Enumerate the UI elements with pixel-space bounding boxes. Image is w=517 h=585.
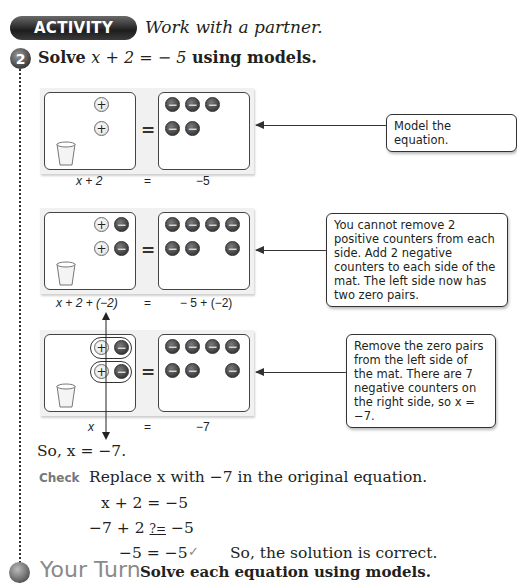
negative-counter: −	[205, 217, 220, 232]
model-1-right-label: −5	[196, 174, 210, 188]
negative-counter: −	[225, 363, 240, 378]
check-label: Check	[39, 471, 80, 485]
negative-counter: −	[165, 97, 180, 112]
equation-mat-2: + − + − = − − − − − − −	[40, 208, 254, 294]
activity-badge: ACTIVITY	[10, 16, 137, 40]
step-title-equation: x + 2 = − 5	[91, 48, 186, 67]
negative-counter: −	[165, 217, 180, 232]
your-turn-label: Your Turn	[40, 557, 141, 582]
negative-counter: −	[205, 97, 220, 112]
mat-left-side: + +	[44, 92, 136, 170]
model-2-equals-label: =	[144, 296, 151, 310]
activity-badge-label: ACTIVITY	[34, 19, 113, 37]
equation-mat-3: + − + − = − − − − − − −	[40, 330, 254, 416]
model-3-left-label: x	[88, 420, 94, 434]
mat-right-side: − − − − − − −	[158, 334, 250, 412]
negative-counter: −	[114, 241, 129, 256]
negative-counter: −	[165, 121, 180, 136]
equation-mat-1: + + = − − − − −	[40, 88, 254, 174]
negative-counter: −	[225, 241, 240, 256]
mat-equals-sign: =	[141, 240, 155, 260]
negative-counter: −	[185, 363, 200, 378]
check-line-1: x + 2 = −5	[101, 494, 188, 512]
negative-counter: −	[185, 339, 200, 354]
mat-right-side: − − − − −	[158, 92, 250, 170]
negative-counter: −	[185, 121, 200, 136]
negative-counter: −	[205, 339, 220, 354]
negative-counter: −	[165, 339, 180, 354]
negative-counter: −	[165, 363, 180, 378]
positive-counter: +	[94, 97, 109, 112]
callout-add-negatives: You cannot remove 2 positive counters fr…	[326, 213, 508, 307]
mat-equals-sign: =	[141, 120, 155, 140]
check-line-2: −7 + 2 ?= −5	[89, 519, 194, 537]
callout-model-equation: Model the equation.	[386, 114, 517, 152]
negative-counter: −	[225, 217, 240, 232]
your-turn-ball-icon	[9, 562, 30, 583]
check-instruction: Replace x with −7 in the original equati…	[89, 468, 427, 486]
mat-right-side: − − − − − − −	[158, 212, 250, 290]
model-2-right-label: − 5 + (−2)	[180, 296, 232, 310]
callout-remove-zero-pairs: Remove the zero pairs from the left side…	[346, 334, 496, 428]
conclusion-text: So, x = −7.	[37, 442, 126, 460]
negative-counter: −	[185, 241, 200, 256]
negative-counter: −	[165, 241, 180, 256]
your-turn-text: Solve each equation using models.	[140, 563, 431, 581]
negative-counter: −	[185, 217, 200, 232]
mat-left-side: + − + −	[44, 212, 136, 290]
remove-zero-pairs-arrow-icon	[100, 312, 112, 442]
callout-arrow	[256, 125, 386, 126]
positive-counter: +	[94, 121, 109, 136]
cup-icon	[55, 383, 77, 409]
negative-counter: −	[114, 340, 129, 355]
mat-equals-sign: =	[141, 362, 155, 382]
dotted-margin-line	[19, 48, 21, 583]
cup-icon	[55, 141, 77, 167]
check-result: So, the solution is correct.	[230, 544, 437, 562]
negative-counter: −	[185, 97, 200, 112]
positive-counter: +	[94, 241, 109, 256]
model-3-equals-label: =	[144, 420, 151, 434]
negative-counter: −	[114, 217, 129, 232]
step-title-suffix: using models.	[186, 48, 316, 67]
step-number-badge: 2	[10, 48, 31, 69]
step-title: Solve x + 2 = − 5 using models.	[38, 48, 317, 67]
questioned-equals: ?=	[150, 522, 167, 536]
model-1-equals-label: =	[144, 174, 151, 188]
activity-subtitle: Work with a partner.	[145, 17, 323, 37]
model-1-left-label: x + 2	[76, 174, 102, 188]
checkmark-icon: ✓	[188, 544, 199, 559]
check-line-2-left: −7 + 2	[89, 519, 145, 537]
check-line-2-right: −5	[171, 519, 194, 537]
negative-counter: −	[114, 364, 129, 379]
callout-arrow	[256, 250, 326, 251]
negative-counter: −	[225, 339, 240, 354]
step-title-prefix: Solve	[38, 48, 91, 67]
mat-left-side: + − + −	[44, 334, 136, 412]
callout-arrow	[256, 372, 346, 373]
model-2-left-label: x + 2 + (−2)	[56, 296, 118, 310]
cup-icon	[55, 261, 77, 287]
positive-counter: +	[94, 217, 109, 232]
model-3-right-label: −7	[196, 420, 210, 434]
